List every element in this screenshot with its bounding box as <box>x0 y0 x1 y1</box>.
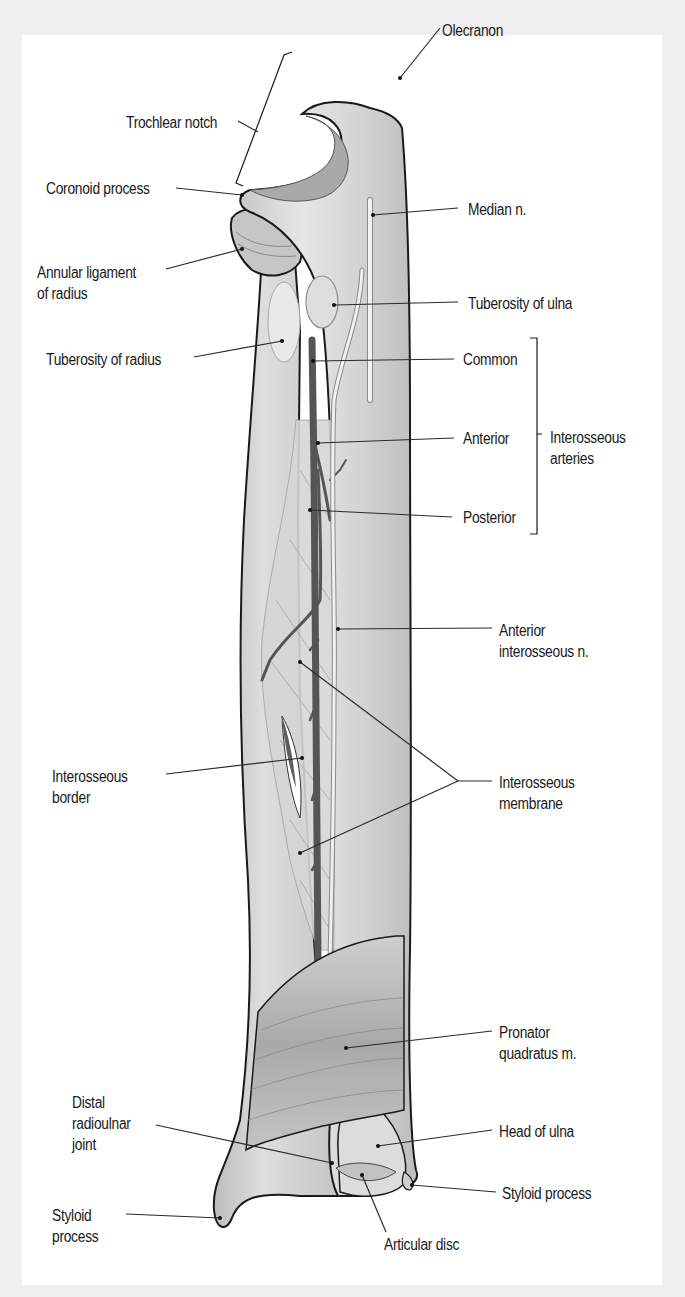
trochlear-notch-bracket <box>236 52 292 186</box>
label-annular-ligament: Annular ligament <box>37 262 136 283</box>
label-anterior-interosseous-nerve-line2: interosseous n. <box>499 641 588 662</box>
label-trochlear-notch: Trochlear notch <box>126 112 217 133</box>
label-interosseous-arteries: Interosseous <box>550 427 626 448</box>
label-interosseous-border: Interosseous <box>52 766 128 787</box>
label-common-interosseous: Common <box>463 349 517 370</box>
label-median-nerve: Median n. <box>468 199 526 220</box>
label-styloid-process-radius-line2: process <box>52 1226 98 1247</box>
label-tuberosity-of-radius: Tuberosity of radius <box>46 349 161 370</box>
label-coronoid-process: Coronoid process <box>46 178 150 199</box>
label-interosseous-arteries-line2: arteries <box>550 448 594 469</box>
label-distal-radioulnar-joint-line3: joint <box>72 1134 96 1155</box>
label-pronator-quadratus: Pronator <box>499 1022 550 1043</box>
label-articular-disc: Articular disc <box>384 1234 459 1255</box>
label-head-of-ulna: Head of ulna <box>499 1121 574 1142</box>
arteries-bracket <box>530 338 542 534</box>
label-anterior-interosseous: Anterior <box>463 428 509 449</box>
label-pronator-quadratus-line2: quadratus m. <box>499 1043 576 1064</box>
label-olecranon: Olecranon <box>442 20 503 41</box>
label-distal-radioulnar-joint-line2: radioulnar <box>72 1113 131 1134</box>
label-interosseous-border-line2: border <box>52 787 90 808</box>
label-interosseous-membrane: Interosseous <box>499 772 575 793</box>
label-styloid-process-radius: Styloid <box>52 1205 92 1226</box>
label-distal-radioulnar-joint: Distal <box>72 1092 105 1113</box>
label-styloid-process-ulna: Styloid process <box>502 1183 591 1204</box>
label-annular-ligament-line2: of radius <box>37 283 87 304</box>
label-interosseous-membrane-line2: membrane <box>499 793 563 814</box>
label-posterior-interosseous: Posterior <box>463 507 516 528</box>
label-anterior-interosseous-nerve: Anterior <box>499 620 545 641</box>
label-tuberosity-of-ulna: Tuberosity of ulna <box>468 293 572 314</box>
